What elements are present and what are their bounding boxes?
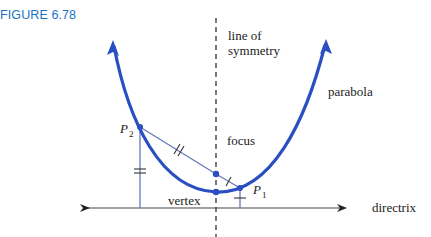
line-of-symmetry-label-2: symmetry xyxy=(228,43,280,58)
directrix-label: directrix xyxy=(372,200,417,215)
vertex-point xyxy=(213,189,219,195)
p1-subscript: 1 xyxy=(262,190,267,200)
arrow-left-icon xyxy=(107,40,119,56)
focus-to-p1-segment xyxy=(216,174,240,188)
focus-point xyxy=(213,171,219,177)
parabola-label: parabola xyxy=(328,84,373,99)
line-of-symmetry-label-1: line of xyxy=(228,28,262,43)
focus-label: focus xyxy=(227,133,255,148)
p1-label: P xyxy=(252,182,261,197)
vertex-label: vertex xyxy=(168,193,201,208)
arrow-right-icon xyxy=(320,39,332,54)
p2-label: P xyxy=(119,121,128,136)
single-tick-mark xyxy=(226,177,231,186)
p2-subscript: 2 xyxy=(129,129,134,139)
p2-point xyxy=(137,124,143,130)
parabola-diagram: line of symmetry parabola focus vertex d… xyxy=(0,0,431,237)
p1-point xyxy=(237,185,243,191)
parabola-curve xyxy=(114,45,325,192)
